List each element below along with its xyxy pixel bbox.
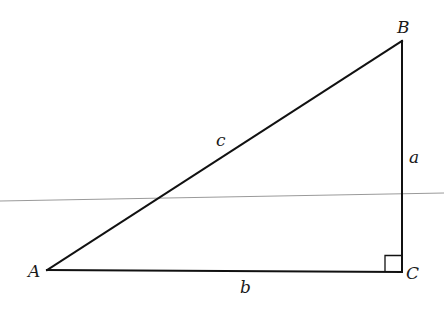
side-label-a: a [409, 147, 419, 167]
side-label-c: c [216, 130, 226, 150]
vertex-label-a-upper: A [26, 261, 40, 281]
right-angle-marker [385, 256, 402, 272]
side-b-base [47, 270, 402, 272]
right-triangle-diagram: A B C c a b [0, 0, 444, 315]
side-c-hypotenuse [47, 41, 402, 270]
scan-line [0, 193, 444, 201]
vertex-label-b-upper: B [396, 17, 410, 37]
side-label-b: b [240, 277, 251, 297]
vertex-label-c-upper: C [406, 263, 419, 283]
